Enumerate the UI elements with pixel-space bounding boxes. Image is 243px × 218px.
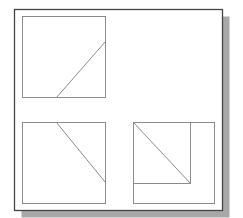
projection-drawing xyxy=(0,0,243,218)
diagram-canvas xyxy=(0,0,243,218)
drawing-frame xyxy=(15,10,223,211)
